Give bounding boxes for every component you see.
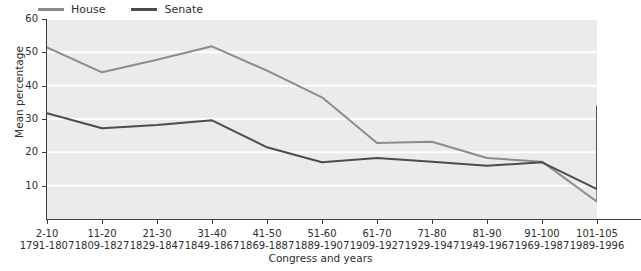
legend-label-house: House [71, 4, 105, 15]
plot-area [47, 19, 597, 219]
x-tick-mark [542, 220, 543, 224]
x-tick-label-years: 1989-1996 [553, 240, 641, 252]
x-tick-mark [377, 220, 378, 224]
x-tick-label-congress: 101-105 [553, 228, 641, 240]
line-chart-figure: House Senate Mean percentage 10203040506… [0, 0, 641, 271]
y-tick-label: 10 [12, 180, 38, 191]
x-tick-mark [47, 220, 48, 224]
y-tick-mark [42, 19, 46, 20]
legend-swatch-house [38, 8, 64, 11]
legend-entry-house: House [38, 4, 105, 15]
y-tick-mark [42, 152, 46, 153]
series-line-house [47, 46, 597, 201]
chart-svg [47, 19, 597, 219]
x-tick-mark [432, 220, 433, 224]
x-axis-spine [46, 219, 641, 220]
legend-label-senate: Senate [164, 4, 203, 15]
y-tick-mark [42, 52, 46, 53]
chart-legend: House Senate [38, 0, 203, 18]
y-tick-label: 50 [12, 46, 38, 57]
x-tick-mark [597, 220, 598, 224]
y-tick-label: 30 [12, 113, 38, 124]
x-tick-mark [102, 220, 103, 224]
x-tick-label: 101-1051989-1996 [553, 228, 641, 252]
y-tick-label: 60 [12, 13, 38, 24]
y-tick-mark [42, 119, 46, 120]
y-axis-spine [46, 19, 47, 220]
y-tick-mark [42, 86, 46, 87]
legend-entry-senate: Senate [131, 4, 203, 15]
y-tick-mark [42, 186, 46, 187]
x-tick-mark [157, 220, 158, 224]
x-tick-mark [212, 220, 213, 224]
x-tick-mark [322, 220, 323, 224]
y-tick-label: 40 [12, 80, 38, 91]
x-axis-title: Congress and years [0, 252, 641, 264]
x-tick-mark [267, 220, 268, 224]
data-series-group [47, 46, 597, 201]
x-tick-mark [487, 220, 488, 224]
legend-swatch-senate [131, 8, 157, 11]
y-tick-label: 20 [12, 146, 38, 157]
